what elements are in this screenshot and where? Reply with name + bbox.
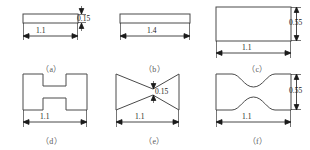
- caption-d: （d）: [0, 137, 103, 146]
- panel-f-drawing: [206, 72, 309, 147]
- arrow-left-e: [116, 120, 122, 125]
- arrow-left-f: [216, 120, 222, 125]
- thickness-dimension-a: 0.15: [77, 15, 90, 23]
- width-dimension-c: 1.1: [242, 44, 251, 52]
- specimen-geometry-figure: 1.1 0.15 （a） 1.4 （b）: [0, 0, 310, 150]
- panel-b-drawing: [103, 0, 206, 75]
- width-dimension-a: 1.1: [36, 27, 45, 35]
- panel-d-drawing: [0, 72, 103, 147]
- caption-e: （e）: [103, 137, 206, 146]
- specimen-outline-d: [23, 74, 87, 110]
- panel-e-drawing: [103, 72, 206, 147]
- arrow-down-c: [294, 7, 299, 13]
- arrow-right-b: [184, 34, 190, 39]
- specimen-outline-c: [216, 7, 291, 41]
- arrow-right-a: [72, 34, 78, 39]
- arrow-up-f: [294, 105, 299, 111]
- height-dimension-c: 0.55: [289, 19, 302, 27]
- caption-f: （f）: [206, 137, 309, 146]
- arrow-right-f: [285, 120, 291, 125]
- panel-f: 1.1 0.55 （f）: [206, 72, 309, 147]
- arrow-up-c: [294, 36, 299, 42]
- height-dimension-f: 0.55: [289, 87, 302, 95]
- arrow-right-c: [285, 51, 291, 56]
- arrow-down-f: [294, 74, 299, 80]
- panel-c-drawing: [206, 0, 309, 75]
- width-dimension-f: 1.1: [242, 113, 251, 121]
- specimen-outline-b: [120, 14, 190, 23]
- panel-a: 1.1 0.15 （a）: [0, 0, 103, 75]
- arrow-up-a: [79, 23, 84, 29]
- panel-b: 1.4 （b）: [103, 0, 206, 75]
- panel-e: 1.1 0.15 （e）: [103, 72, 206, 147]
- specimen-outline-a: [23, 14, 78, 23]
- arrow-right-e: [173, 120, 179, 125]
- arrow-left-b: [120, 34, 126, 39]
- specimen-outline-f: [216, 74, 291, 110]
- arrow-right-d: [81, 120, 87, 125]
- width-dimension-b: 1.4: [147, 27, 156, 35]
- panel-a-drawing: [0, 0, 103, 75]
- panel-c: 1.1 0.55 （c）: [206, 0, 309, 75]
- specimen-outline-e: [116, 74, 179, 110]
- panel-d: 1.1 （d）: [0, 72, 103, 147]
- width-dimension-e: 1.1: [135, 113, 144, 121]
- neck-dimension-e: 0.15: [155, 88, 168, 96]
- width-dimension-d: 1.1: [40, 113, 49, 121]
- arrow-left-a: [23, 34, 29, 39]
- arrow-left-d: [23, 120, 29, 125]
- arrow-left-c: [216, 51, 222, 56]
